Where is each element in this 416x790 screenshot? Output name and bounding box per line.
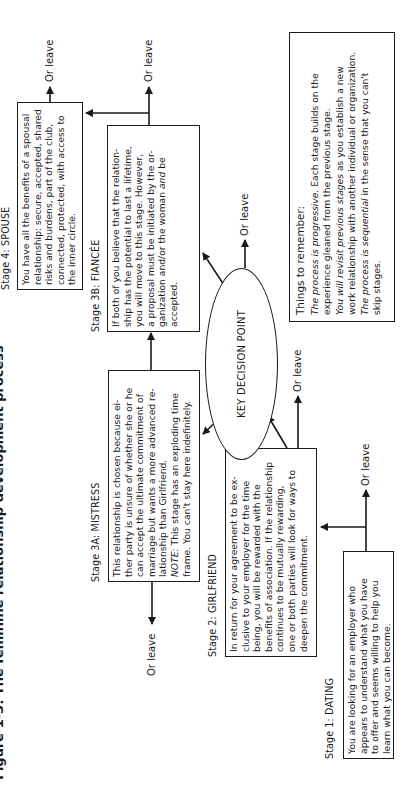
- remember-item: The process is progressive. Each stage b…: [309, 39, 332, 315]
- box-text-line: frame. You can't stay here indefinitely.: [181, 375, 193, 577]
- stage-1-dating-box: You are looking for an employer who appe…: [343, 551, 394, 759]
- stage-3a-label: Stage 3A: MISTRESS: [90, 483, 101, 582]
- exit-label-stage-1: Or leave: [360, 444, 371, 486]
- box-text-line: to offer and seems willing to help you: [369, 556, 381, 754]
- key-decision-point-ellipse: KEY DECISION POINT: [205, 268, 278, 460]
- remember-text: Each stage builds on the: [309, 73, 320, 189]
- stage-3a-mistress-box: This relationship is chosen because ei- …: [108, 370, 200, 582]
- stage-3b-fiancee-box: If both of you believe that the relation…: [107, 125, 200, 332]
- box-text-line: can accept the ultimate commitment of: [134, 375, 146, 577]
- box-text-line: In return for your agreement to be ex-: [228, 453, 240, 652]
- stage-2-girlfriend-box: In return for your agreement to be ex- c…: [225, 448, 317, 657]
- box-text-line: You are looking for an employer who: [346, 556, 358, 754]
- text-part: be: [156, 157, 167, 171]
- exit-label-stage-2: Or leave: [292, 350, 303, 392]
- emphasis-and: and: [156, 172, 167, 189]
- box-text-line: risks and burdens, part of the club,: [43, 107, 55, 285]
- remember-emphasis: The process is progressive.: [309, 190, 320, 315]
- note-prefix: NOTE:: [169, 548, 180, 577]
- note-line: NOTE: This stage has an exploding time: [169, 375, 181, 577]
- stage-4-label: Stage 4: SPOUSE: [0, 207, 11, 290]
- stage-3b-label: Stage 3B: FIANCÉE: [90, 240, 101, 332]
- remember-heading: Things to remember:: [294, 39, 307, 315]
- remember-text: experience gleaned from the previous sta…: [321, 39, 333, 315]
- box-text-line: a proposal must be initiated by the or-: [145, 130, 157, 327]
- note-text: This stage has an exploding time: [169, 393, 180, 548]
- box-text-line: continues to be mutually rewarding,: [274, 453, 286, 652]
- box-text-line: learn what you can become.: [381, 556, 393, 754]
- diagram-canvas: Figure 1-3: The feminine relationship de…: [0, 0, 416, 790]
- remember-emphasis: sequential: [359, 198, 370, 246]
- box-text-line: ther party is unsure of whether she or h…: [123, 375, 135, 577]
- box-text-line: accepted.: [168, 130, 180, 327]
- text-part: ganization and/or the woman: [156, 192, 167, 327]
- stage-4-spouse-box: You have all the benefits of a spousal r…: [17, 102, 83, 290]
- box-text-line: lationship than Girlfriend.: [157, 375, 169, 577]
- remember-emphasis: You will revisit previous stages: [334, 174, 345, 315]
- exit-label-stage-3a: Or leave: [146, 634, 157, 676]
- remember-text: as you establish a new: [334, 66, 345, 174]
- box-text-line: being, you will be rewarded with the: [251, 453, 263, 652]
- box-text-line: You have all the benefits of a spousal: [20, 107, 32, 285]
- things-to-remember-box: Things to remember: The process is progr…: [289, 32, 395, 322]
- box-text-line: you will move to this stage. However,: [133, 130, 145, 327]
- box-text-line: deepen the commitment.: [298, 453, 310, 652]
- box-text-line: marriage but wants a more advanced re-: [146, 375, 158, 577]
- remember-item: The process is sequential in the sense t…: [359, 39, 382, 315]
- remember-text: work relationship with another individua…: [346, 39, 358, 315]
- stage-1-label: Stage 1: DATING: [324, 678, 335, 759]
- decision-label: KEY DECISION POINT: [236, 310, 247, 418]
- box-text-line: ganization and/or the woman and be: [156, 130, 168, 327]
- box-text-line: If both of you believe that the relation…: [110, 130, 122, 327]
- box-text-line: relationship: secure, accepted, shared: [32, 107, 44, 285]
- box-text-line: connected, protected, with access to: [55, 107, 67, 285]
- stage-2-label: Stage 2: GIRLFRIEND: [207, 554, 218, 657]
- remember-emphasis: The process is: [359, 246, 370, 315]
- box-text-line: one or both parties will look for ways t…: [286, 453, 298, 652]
- box-text-line: the inner circle.: [66, 107, 78, 285]
- exit-label-decision: Or leave: [239, 194, 250, 236]
- box-text-line: appears to understand what you have: [358, 556, 370, 754]
- remember-text: in the sense that you can't: [359, 73, 370, 199]
- remember-text: skip stages.: [371, 39, 383, 315]
- exit-label-stage-4: Or leave: [44, 40, 55, 82]
- box-text-line: ship has the potential to last a lifetim…: [122, 130, 134, 327]
- remember-item: You will revisit previous stages as you …: [334, 39, 357, 315]
- box-text-line: This relationship is chosen because ei-: [111, 375, 123, 577]
- exit-label-stage-3b: Or leave: [143, 40, 154, 82]
- box-text-line: benefits of association. If the relation…: [263, 453, 275, 652]
- box-text-line: clusive to your employer for the time: [240, 453, 252, 652]
